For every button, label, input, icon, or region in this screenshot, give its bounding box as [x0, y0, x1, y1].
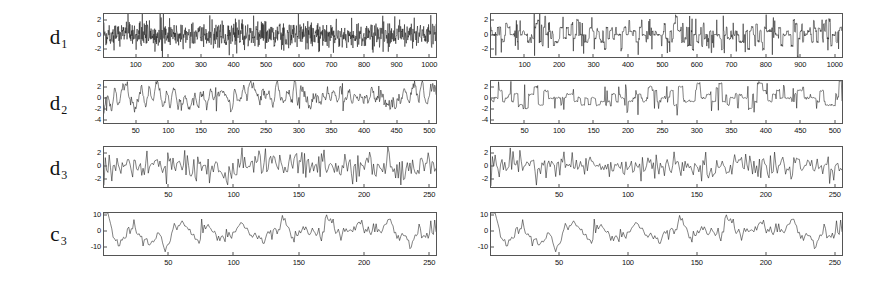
y-tick-mark [491, 20, 494, 21]
x-tick-mark [135, 120, 136, 123]
x-tick-label: 200 [351, 191, 377, 199]
x-tick-mark [731, 54, 732, 57]
row-label-base: d [50, 25, 61, 49]
y-tick-label: 0 [466, 31, 488, 39]
y-tick-mark [104, 215, 107, 216]
row-label-subscript: 1 [61, 37, 67, 51]
x-tick-label: 300 [286, 127, 312, 135]
x-tick-label: 400 [615, 61, 641, 69]
y-tick-label: -4 [466, 116, 488, 124]
row-label-base: c [50, 222, 59, 246]
x-tick-mark [834, 120, 835, 123]
y-tick-label: 0 [79, 162, 101, 170]
x-tick-label: 50 [155, 191, 181, 199]
y-tick-label: -2 [79, 46, 101, 54]
y-tick-label: -2 [79, 175, 101, 183]
x-tick-mark [429, 120, 430, 123]
left-panel: d120-21002003004005006007008009001000d22… [0, 0, 436, 289]
x-tick-label: 250 [822, 259, 848, 267]
x-tick-label: 200 [753, 259, 779, 267]
x-tick-mark [429, 252, 430, 255]
trace-canvas-right-d2 [491, 81, 842, 123]
wavelet-decomposition-figure: d120-21002003004005006007008009001000d22… [0, 0, 871, 289]
x-tick-label: 350 [318, 127, 344, 135]
y-tick-label: 0 [466, 94, 488, 102]
x-tick-label: 100 [546, 127, 572, 135]
trace-canvas-left-d2 [104, 81, 436, 123]
x-tick-mark [558, 252, 559, 255]
trace-canvas-right-d3 [491, 147, 842, 187]
trace-canvas-right-d1 [491, 14, 842, 57]
y-tick-mark [104, 20, 107, 21]
x-tick-mark [233, 120, 234, 123]
x-tick-label: 150 [684, 259, 710, 267]
row-label-d1: d1 [34, 27, 82, 48]
plot-left-d2 [103, 80, 437, 124]
x-tick-mark [765, 252, 766, 255]
x-tick-mark [627, 184, 628, 187]
signal-trace-right-d3 [491, 148, 842, 186]
x-tick-mark [200, 54, 201, 57]
x-tick-mark [266, 120, 267, 123]
x-tick-label: 450 [384, 127, 410, 135]
x-tick-label: 600 [684, 61, 710, 69]
y-tick-mark [104, 97, 107, 98]
y-tick-mark [491, 178, 494, 179]
x-tick-mark [363, 120, 364, 123]
x-tick-mark [396, 120, 397, 123]
trace-canvas-right-c3 [491, 213, 842, 255]
y-tick-label: 2 [79, 83, 101, 91]
x-tick-mark [429, 184, 430, 187]
x-tick-label: 400 [220, 61, 246, 69]
x-tick-label: 150 [286, 259, 312, 267]
x-tick-label: 200 [155, 61, 181, 69]
y-tick-label: 2 [466, 83, 488, 91]
x-tick-mark [765, 54, 766, 57]
y-tick-label: -2 [466, 175, 488, 183]
y-tick-label: 0 [466, 227, 488, 235]
x-tick-mark [298, 120, 299, 123]
x-tick-mark [233, 184, 234, 187]
plot-right-d2 [490, 80, 843, 124]
plot-left-d1 [103, 13, 437, 58]
x-tick-label: 200 [753, 191, 779, 199]
x-tick-mark [627, 252, 628, 255]
plot-right-d3 [490, 146, 843, 188]
plot-right-d1 [490, 13, 843, 58]
x-tick-mark [558, 184, 559, 187]
y-tick-label: 2 [466, 17, 488, 25]
right-panel: 20-2100200300400500600700800900100020-2-… [436, 0, 871, 289]
x-tick-label: 100 [123, 61, 149, 69]
x-tick-mark [233, 252, 234, 255]
x-tick-mark [266, 54, 267, 57]
x-tick-mark [800, 54, 801, 57]
y-tick-label: 10 [466, 211, 488, 219]
x-tick-label: 200 [220, 127, 246, 135]
y-tick-mark [104, 230, 107, 231]
x-tick-label: 150 [188, 127, 214, 135]
x-tick-label: 150 [684, 191, 710, 199]
x-tick-label: 500 [649, 61, 675, 69]
x-tick-label: 250 [649, 127, 675, 135]
x-tick-mark [834, 54, 835, 57]
x-tick-label: 250 [253, 127, 279, 135]
y-tick-mark [104, 49, 107, 50]
x-tick-label: 700 [318, 61, 344, 69]
x-tick-label: 100 [155, 127, 181, 135]
y-tick-mark [491, 215, 494, 216]
x-tick-mark [331, 54, 332, 57]
signal-trace-right-d1 [491, 14, 842, 57]
x-tick-mark [331, 120, 332, 123]
x-tick-label: 50 [511, 127, 537, 135]
x-tick-mark [429, 54, 430, 57]
x-tick-label: 100 [511, 61, 537, 69]
x-tick-label: 200 [351, 259, 377, 267]
x-tick-mark [298, 54, 299, 57]
y-tick-mark [491, 34, 494, 35]
x-tick-mark [168, 120, 169, 123]
x-tick-mark [696, 54, 697, 57]
y-tick-label: 2 [79, 17, 101, 25]
y-tick-label: 0 [79, 227, 101, 235]
x-tick-mark [168, 54, 169, 57]
y-tick-mark [104, 108, 107, 109]
